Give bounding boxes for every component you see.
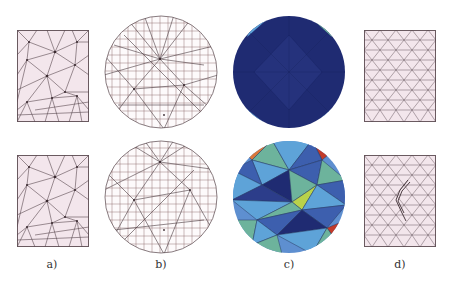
colormap-disk-figure [232,15,346,129]
colormap-disk-figure [232,140,346,254]
label-a: a) [32,258,72,271]
panel-c-bottom [232,140,346,254]
coarse-mesh-figure [17,155,89,247]
panel-a-top [17,30,89,122]
wireframe-disk-figure [104,15,218,129]
label-b: b) [141,258,181,271]
panel-a-bottom [17,155,89,247]
fine-mesh-figure [364,155,436,247]
fine-mesh-figure [364,30,436,122]
panel-b-top [104,15,218,129]
label-d: d) [380,258,420,271]
coarse-mesh-figure [17,30,89,122]
panel-d-top [364,30,436,122]
panel-b-bottom [104,140,218,254]
panel-d-bottom [364,155,436,247]
panel-c-top [232,15,346,129]
wireframe-disk-figure [104,140,218,254]
label-c: c) [269,258,309,271]
